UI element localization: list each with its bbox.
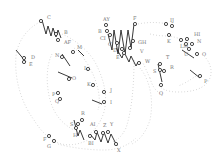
node-label: B xyxy=(64,29,68,35)
node-label: CI xyxy=(100,35,106,41)
node-label: M xyxy=(77,44,82,50)
zigzag-strokes xyxy=(16,20,200,146)
node-label: P xyxy=(52,91,56,97)
node-label: N xyxy=(55,52,60,58)
node-label: E xyxy=(29,61,33,67)
node-label: S xyxy=(153,68,157,74)
node-label: F xyxy=(43,136,47,142)
node-label: K xyxy=(167,38,171,44)
node-label: LM xyxy=(180,43,188,49)
node-label: C xyxy=(108,41,112,47)
node-label: V xyxy=(139,48,144,54)
node-label: D xyxy=(113,47,117,53)
diagram-svg: CBAFDEMNLOKJPQIRSHAIZYBIXFGAYBCIFCDEGHVW… xyxy=(0,0,219,164)
node-label: GH xyxy=(138,39,147,45)
node-label: G xyxy=(47,143,51,149)
stitch-diagram: CBAFDEMNLOKJPQIRSHAIZYBIXFGAYBCIFCDEGHVW… xyxy=(0,0,219,164)
node-label: R xyxy=(81,110,85,116)
node-label: W xyxy=(145,58,151,64)
node-label: AI xyxy=(89,121,96,127)
node-label: D xyxy=(31,54,35,60)
node-label: K xyxy=(87,81,91,87)
node-label: I xyxy=(110,99,112,105)
node-label: AY xyxy=(102,16,110,22)
node-label: Q xyxy=(55,98,59,104)
node-label: H xyxy=(73,132,78,138)
node-label: T xyxy=(166,54,170,60)
node-label: P xyxy=(204,78,208,84)
node-label: BI xyxy=(88,140,94,146)
node-label: F xyxy=(133,15,137,21)
node-label: Y xyxy=(109,121,114,127)
node-label: B xyxy=(98,28,102,34)
node-label: O xyxy=(202,51,206,57)
node-label: C xyxy=(47,14,51,20)
node-label: AF xyxy=(63,39,72,45)
node-label: HI xyxy=(194,31,200,37)
node-label: N xyxy=(197,38,202,44)
node-label: J xyxy=(109,87,112,94)
node-label: Z xyxy=(103,122,107,128)
node-label: E xyxy=(116,54,120,60)
node-label: R xyxy=(170,64,174,70)
node-label: S xyxy=(70,121,74,127)
node-label: U xyxy=(184,51,188,57)
node-label: O xyxy=(72,75,76,81)
node-label: IJ xyxy=(170,17,174,24)
node-label: Q xyxy=(159,90,163,96)
node-label: X xyxy=(117,147,121,153)
